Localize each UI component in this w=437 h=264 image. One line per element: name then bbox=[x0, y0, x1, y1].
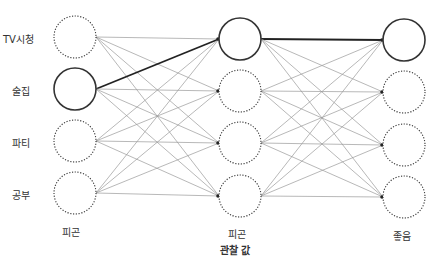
state-node bbox=[54, 120, 96, 162]
transition-edge bbox=[96, 143, 219, 193]
col-label-1: 피곤 bbox=[62, 224, 80, 239]
state-node-active bbox=[219, 18, 261, 60]
path-edge bbox=[261, 39, 383, 40]
transition-edge bbox=[96, 37, 219, 39]
transition-edge bbox=[96, 39, 219, 193]
caption: 관찰 값 bbox=[220, 242, 250, 257]
state-node-active bbox=[383, 19, 425, 61]
transition-edge bbox=[96, 141, 219, 196]
transition-edge bbox=[261, 145, 383, 196]
hmm-diagram: TV시청 술집 파티 공부 피곤 피곤 좋음 관찰 값 bbox=[0, 0, 437, 264]
row-label-study: 공부 bbox=[12, 187, 30, 202]
transition-edge bbox=[261, 196, 383, 197]
state-node bbox=[219, 70, 261, 112]
col-label-2: 피곤 bbox=[228, 226, 246, 241]
row-label-tv: TV시청 bbox=[3, 31, 34, 46]
path-edge bbox=[96, 39, 219, 89]
state-node-active bbox=[54, 68, 96, 110]
transition-edge bbox=[96, 39, 219, 141]
row-label-party: 파티 bbox=[12, 135, 30, 150]
transition-edge bbox=[261, 40, 383, 91]
transition-edge bbox=[261, 143, 383, 197]
state-node bbox=[219, 175, 261, 217]
transition-edge bbox=[261, 40, 383, 196]
state-node bbox=[219, 122, 261, 164]
state-node bbox=[54, 16, 96, 58]
row-label-bar: 술집 bbox=[12, 83, 30, 98]
transition-edge bbox=[96, 91, 219, 193]
transition-edge bbox=[96, 193, 219, 196]
col-label-3: 좋음 bbox=[393, 228, 411, 243]
state-node bbox=[383, 124, 425, 166]
state-node bbox=[383, 71, 425, 113]
state-node bbox=[54, 172, 96, 214]
state-node bbox=[383, 176, 425, 218]
transition-edge bbox=[261, 92, 383, 196]
